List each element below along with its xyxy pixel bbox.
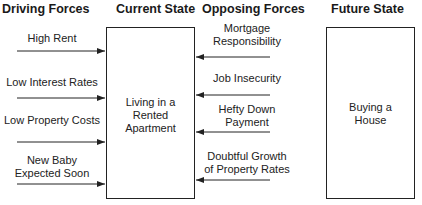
force-arrows	[0, 0, 422, 205]
